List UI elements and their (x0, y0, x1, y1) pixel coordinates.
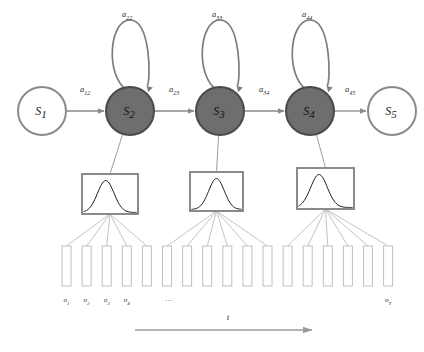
transition-label-a23: a23 (169, 84, 179, 96)
state-emission-link-b4 (316, 134, 325, 168)
self-loop-label-a33: a33 (212, 9, 222, 21)
observation-label-o3: o3 (104, 296, 111, 306)
emission-box-b4 (297, 168, 354, 209)
fan-line-b2-o1 (67, 214, 111, 246)
observation-ellipsis: ... (165, 294, 173, 303)
observation-label-o2: o2 (84, 296, 91, 306)
hmm-diagram: a22a33a44 a12a23a34a45 o1o2o3o4oT... S1S… (0, 0, 424, 352)
observation-rect-16 (364, 246, 373, 286)
observation-rect-17 (384, 246, 393, 286)
self-loop-label-a44: a44 (302, 9, 312, 21)
emission-box-group (82, 168, 354, 214)
emission-box-b3 (190, 172, 243, 211)
state-emission-link-b2 (110, 134, 123, 174)
observation-rect-10 (243, 246, 252, 286)
observation-rect-6 (163, 246, 172, 286)
fan-line-b2-o4 (110, 214, 127, 246)
state-emission-link-group (110, 134, 326, 174)
self-loop-a22 (112, 20, 149, 90)
fan-line-b2-o5 (110, 214, 147, 246)
observation-rect-1 (62, 246, 71, 286)
fan-line-b3-o10 (217, 211, 248, 246)
transition-label-a45: a45 (345, 84, 355, 96)
fan-line-b4-o12 (288, 209, 326, 246)
hmm-diagram-canvas: a22a33a44 a12a23a34a45 o1o2o3o4oT... S1S… (0, 0, 424, 352)
observation-rect-11 (263, 246, 272, 286)
observation-rect-13 (303, 246, 312, 286)
observation-rect-12 (283, 246, 292, 286)
observation-rect-15 (343, 246, 352, 286)
transition-label-a34: a34 (259, 84, 269, 96)
observation-label-o4: o4 (124, 296, 131, 306)
fan-line-b4-o16 (326, 209, 369, 246)
time-axis-group: t (135, 312, 312, 330)
observation-rect-2 (82, 246, 91, 286)
self-loop-group: a22a33a44 (112, 9, 329, 90)
observation-rect-3 (102, 246, 111, 286)
time-axis-label: t (227, 312, 230, 322)
observation-rect-8 (203, 246, 212, 286)
self-loop-a44 (292, 20, 329, 90)
observation-rect-7 (183, 246, 192, 286)
self-loop-a33 (202, 20, 239, 90)
observation-rect-9 (223, 246, 232, 286)
observation-label-o1: o1 (64, 296, 70, 306)
observation-rect-5 (142, 246, 151, 286)
fan-line-b4-o13 (308, 209, 326, 246)
fan-line-b4-o14 (326, 209, 328, 246)
transition-label-a12: a12 (80, 84, 90, 96)
observation-label-oT: oT (385, 296, 393, 306)
state-emission-link-b3 (217, 135, 219, 172)
fan-line-b4-o17 (326, 209, 389, 246)
fan-line-b2-o2 (87, 214, 110, 246)
self-loop-label-a22: a22 (122, 9, 132, 21)
emission-box-b2 (82, 174, 138, 214)
fan-line-b4-o15 (326, 209, 348, 246)
fan-line-b2-o3 (107, 214, 110, 246)
observation-rect-14 (323, 246, 332, 286)
fan-line-b3-o11 (217, 211, 268, 246)
observation-rect-4 (122, 246, 131, 286)
observation-group: o1o2o3o4oT... (62, 246, 393, 306)
fan-line-b3-o9 (217, 211, 228, 246)
